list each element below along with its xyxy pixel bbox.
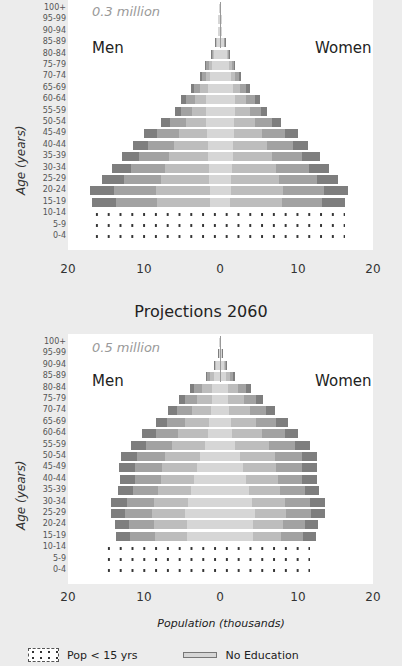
age-tick-label: 65-69 — [43, 417, 66, 427]
bar-segment — [269, 441, 295, 450]
bar-segment — [256, 418, 276, 427]
bar-segment — [262, 429, 285, 438]
age-tick-label: 15-19 — [43, 531, 66, 541]
bar-segment — [220, 509, 255, 518]
x-tick: 20 — [60, 590, 75, 604]
bar-segment — [238, 384, 246, 393]
bar-segment — [220, 406, 229, 415]
x-tick: 10 — [136, 590, 151, 604]
bar-segment — [191, 486, 220, 495]
women-bar — [220, 429, 298, 438]
bar-segment — [220, 475, 246, 484]
women-bar — [220, 498, 325, 507]
pop-under-15-block — [103, 543, 310, 577]
bar-segment — [205, 441, 220, 450]
legend-item-no-education: No Education — [183, 649, 298, 662]
legend-label: Pop < 15 yrs — [67, 649, 137, 662]
bar-segment — [311, 509, 325, 518]
bar-segment — [197, 395, 212, 404]
bar-segment — [220, 418, 231, 427]
women-bar — [220, 395, 263, 404]
bar-segment — [255, 509, 286, 518]
bar-segment — [253, 520, 282, 529]
bar-segment — [197, 463, 220, 472]
bar-segment — [220, 486, 249, 495]
bar-segment — [243, 463, 277, 472]
bar-segment — [200, 452, 220, 461]
men-bar — [121, 452, 220, 461]
age-tick-label: 85-89 — [43, 371, 66, 381]
age-tick-label: 10-14 — [43, 542, 66, 552]
men-bar — [115, 520, 220, 529]
men-bar — [118, 486, 220, 495]
age-tick-label: 95-99 — [43, 348, 66, 358]
bar-segment — [168, 406, 177, 415]
bar-segment — [276, 418, 287, 427]
bar-segment — [190, 384, 195, 393]
bar-segment — [135, 475, 161, 484]
men-bar — [206, 372, 220, 381]
bar-segment — [142, 429, 155, 438]
bar-segment — [209, 418, 220, 427]
bar-segment — [302, 463, 317, 472]
bar-segment — [135, 463, 162, 472]
bar-segment — [120, 475, 135, 484]
bar-segment — [156, 418, 167, 427]
bar-segment — [281, 532, 303, 541]
bar-segment — [188, 498, 220, 507]
women-bar — [220, 509, 325, 518]
bar-segment — [115, 520, 129, 529]
bar-segment — [278, 475, 303, 484]
bar-segment — [220, 463, 243, 472]
bar-segment — [246, 475, 278, 484]
women-bar — [220, 406, 275, 415]
bar-segment — [215, 361, 216, 370]
bar-segment — [179, 395, 186, 404]
age-tick-label: 5-9 — [53, 554, 66, 564]
men-label: Men — [92, 372, 124, 390]
bar-segment — [130, 532, 155, 541]
bar-segment — [129, 520, 154, 529]
bar-segment — [121, 452, 137, 461]
bar-segment — [208, 429, 220, 438]
bar-segment — [165, 452, 201, 461]
bar-segment — [220, 441, 235, 450]
bar-segment — [220, 520, 253, 529]
bar-segment — [246, 384, 251, 393]
bar-segment — [240, 452, 275, 461]
bar-segment — [220, 384, 228, 393]
light-bar-swatch-icon — [183, 652, 217, 658]
bar-segment — [192, 406, 211, 415]
bar-segment — [228, 384, 239, 393]
bar-segment — [185, 418, 209, 427]
age-tick-label: 80-84 — [43, 383, 66, 393]
women-bar — [220, 372, 235, 381]
x-tick: 0 — [216, 590, 224, 604]
bar-segment — [250, 406, 266, 415]
age-tick-label: 100+ — [44, 337, 66, 347]
bar-segment — [285, 498, 311, 507]
bar-segment — [167, 418, 186, 427]
women-bar — [220, 475, 317, 484]
women-bar — [220, 532, 316, 541]
men-bar — [156, 418, 220, 427]
bar-segment — [212, 384, 220, 393]
bar-segment — [220, 429, 232, 438]
bar-segment — [220, 395, 228, 404]
legend: Pop < 15 yrs No Education — [28, 648, 345, 662]
women-bar — [220, 463, 317, 472]
bar-segment — [118, 486, 133, 495]
bar-segment — [162, 463, 197, 472]
men-bar — [111, 498, 220, 507]
women-bar — [220, 486, 319, 495]
bar-segment — [127, 498, 154, 507]
bar-segment — [252, 498, 285, 507]
bar-segment — [244, 395, 256, 404]
bar-segment — [152, 509, 186, 518]
legend-item-pop-under-15: Pop < 15 yrs — [28, 648, 137, 662]
bar-segment — [111, 509, 126, 518]
bar-segment — [156, 429, 179, 438]
bar-segment — [210, 372, 214, 381]
bar-segment — [187, 532, 220, 541]
scale-note: 0.5 million — [92, 340, 160, 355]
